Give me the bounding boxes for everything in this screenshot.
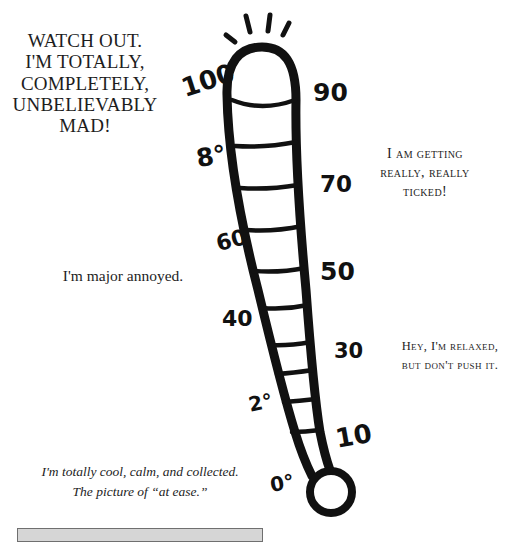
- scale-label-50: 50: [320, 257, 355, 286]
- scale-labels: 100 90 8° 70 60 50 40 30 2° 10 0°: [178, 58, 375, 497]
- scale-label-40: 40: [222, 306, 253, 331]
- scale-label-30: 30: [334, 339, 363, 363]
- thermometer-tube-icon: [227, 47, 330, 476]
- scale-label-70: 70: [320, 171, 352, 197]
- scale-label-10: 10: [333, 418, 374, 454]
- grey-box: [17, 528, 263, 542]
- scale-label-60: 60: [213, 224, 249, 256]
- anger-burst-icon: [226, 15, 289, 42]
- scale-label-80: 8°: [194, 139, 228, 173]
- scale-label-90: 90: [313, 78, 348, 107]
- scale-label-20: 2°: [246, 388, 274, 416]
- thermometer-bulb-icon: [310, 471, 352, 513]
- scale-label-0: 0°: [268, 469, 296, 497]
